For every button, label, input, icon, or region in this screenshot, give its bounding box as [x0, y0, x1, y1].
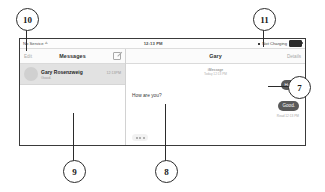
callout-marker-8: 8	[155, 160, 178, 183]
messages-nav-bar: Edit Messages	[20, 49, 125, 64]
list-item[interactable]: Gary Rosenzweig 12:13PM Good.	[20, 64, 125, 85]
message-bubble-outgoing-2[interactable]: Good.	[278, 101, 299, 111]
message-row-outgoing-2: Good.	[132, 101, 299, 111]
read-receipt: Read 12:13 PM	[132, 114, 299, 118]
callout-marker-9: 9	[63, 160, 86, 183]
message-thread[interactable]: iMessage Today 12:13 PM Hello How are yo…	[126, 64, 305, 145]
typing-indicator	[132, 134, 148, 141]
callout-leader-10	[26, 29, 27, 51]
conversation-nav-bar: Gary Details	[126, 49, 305, 64]
callout-marker-10: 10	[16, 8, 39, 31]
device-screenshot: No Service ▵ 12:13 PM Not Charging Edit …	[19, 38, 306, 146]
compose-icon[interactable]	[113, 52, 122, 61]
thread-date-label: Today 12:13 PM	[132, 72, 299, 76]
message-row-incoming-1: How are you?	[132, 93, 299, 98]
thread-spacer	[132, 121, 299, 131]
conversation-top-row: Gary Rosenzweig 12:13PM	[41, 69, 121, 75]
conversation-timestamp: 12:13PM	[107, 71, 121, 75]
edit-button[interactable]: Edit	[24, 54, 32, 59]
conversation-pane: Gary Details iMessage Today 12:13 PM Hel…	[126, 49, 305, 145]
conversation-text: Gary Rosenzweig 12:13PM Good.	[41, 69, 121, 80]
contact-name: Gary Rosenzweig	[41, 69, 83, 75]
battery-icon	[289, 40, 302, 47]
status-bar-right: Not Charging	[258, 40, 302, 47]
typing-dot-1	[136, 137, 138, 139]
callout-marker-7: 7	[288, 76, 311, 99]
callout-marker-11: 11	[253, 8, 276, 31]
conversation-preview: Good.	[41, 76, 121, 80]
thread-timestamp-header: iMessage Today 12:13 PM	[132, 68, 299, 76]
conversation-title: Gary	[126, 53, 305, 59]
charge-state-label: Not Charging	[262, 41, 287, 46]
messages-title: Messages	[20, 53, 125, 59]
details-button[interactable]: Details	[287, 54, 301, 59]
typing-dot-3	[143, 137, 145, 139]
typing-dot-2	[139, 137, 141, 139]
callout-leader-7	[268, 86, 289, 87]
avatar	[24, 67, 38, 81]
split-view: Edit Messages Gary Rosenzweig 12:13PM Go…	[20, 49, 305, 145]
bluetooth-icon	[258, 43, 260, 45]
message-bubble-incoming[interactable]: How are you?	[132, 93, 162, 98]
callout-leader-11	[263, 29, 264, 47]
callout-leader-8	[165, 104, 166, 161]
callout-leader-9	[73, 113, 74, 161]
status-bar-clock: 12:13 PM	[48, 41, 258, 46]
